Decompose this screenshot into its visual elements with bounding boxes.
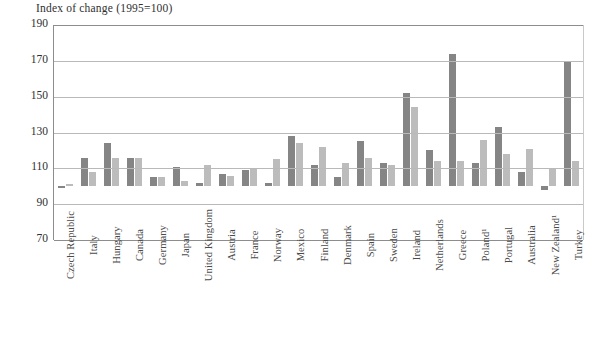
x-label-cell: Mexico xyxy=(284,243,307,338)
bar-series-2 xyxy=(319,147,326,186)
bar-series-1 xyxy=(403,93,410,186)
bar-series-1 xyxy=(58,186,65,188)
bar-series-1 xyxy=(173,167,180,187)
x-axis-label: Norway xyxy=(272,228,283,262)
x-axis-label: Austria xyxy=(226,229,237,261)
bar-series-1 xyxy=(150,177,157,186)
y-tick-label: 110 xyxy=(4,160,48,172)
bar-series-1 xyxy=(219,174,226,187)
x-label-cell: Czech Republic xyxy=(53,243,76,338)
chart-figure: Index of change (1995=100) 1901701501301… xyxy=(0,0,607,338)
y-tick-label: 130 xyxy=(4,125,48,137)
bar-series-1 xyxy=(472,163,479,186)
bar-series-1 xyxy=(357,141,364,186)
x-label-cell: New Zealand¹ xyxy=(538,243,561,338)
y-tick-label: 190 xyxy=(4,17,48,29)
x-label-cell: France xyxy=(238,243,261,338)
bar-series-2 xyxy=(503,154,510,186)
bar-series-1 xyxy=(334,177,341,186)
x-label-cell: Sweden xyxy=(376,243,399,338)
y-axis-title: Index of change (1995=100) xyxy=(36,2,173,14)
bar-series-1 xyxy=(265,183,272,187)
bar-series-2 xyxy=(480,140,487,187)
bar-series-2 xyxy=(135,158,142,187)
x-axis-label: Canada xyxy=(134,229,145,261)
bar-series-1 xyxy=(518,172,525,186)
x-label-cell: Poland¹ xyxy=(469,243,492,338)
x-label-cell: Portugal xyxy=(492,243,515,338)
gridline-130 xyxy=(54,133,583,134)
x-axis-label: Poland¹ xyxy=(480,228,491,261)
x-axis-label: New Zealand¹ xyxy=(550,215,561,276)
x-label-cell: Australia xyxy=(515,243,538,338)
cropped-header-text xyxy=(300,0,480,7)
x-axis-labels: Czech RepublicItalyHungaryCanadaGermanyJ… xyxy=(53,243,584,338)
gridline-150 xyxy=(54,97,583,98)
x-label-cell: Finland xyxy=(307,243,330,338)
bar-series-2 xyxy=(549,168,556,186)
x-label-cell: Austria xyxy=(215,243,238,338)
bar-series-1 xyxy=(449,54,456,187)
x-axis-label: United Kingdom xyxy=(203,209,214,281)
bar-series-2 xyxy=(227,176,234,187)
bar-series-2 xyxy=(342,163,349,186)
x-axis-label: Mexico xyxy=(295,229,306,262)
bar-series-1 xyxy=(104,143,111,186)
x-label-cell: Greece xyxy=(446,243,469,338)
bar-series-2 xyxy=(89,172,96,186)
x-label-cell: Ireland xyxy=(399,243,422,338)
y-tick-label: 170 xyxy=(4,53,48,65)
bar-series-1 xyxy=(127,158,134,187)
plot-area xyxy=(53,25,584,240)
footnote-fragment xyxy=(6,330,306,338)
x-axis-label: Denmark xyxy=(342,225,353,265)
bar-series-2 xyxy=(250,168,257,186)
bar-series-2 xyxy=(158,177,165,186)
gridline-110 xyxy=(54,168,583,169)
x-label-cell: Spain xyxy=(353,243,376,338)
x-axis-label: Portugal xyxy=(503,227,514,263)
x-label-cell: Germany xyxy=(145,243,168,338)
bar-series-2 xyxy=(112,158,119,187)
x-axis-label: Czech Republic xyxy=(65,211,76,279)
y-tick-label: 90 xyxy=(4,196,48,208)
x-label-cell: Italy xyxy=(76,243,99,338)
bar-series-2 xyxy=(296,143,303,186)
x-label-cell: Turkey xyxy=(561,243,584,338)
x-axis-label: Spain xyxy=(365,233,376,257)
bar-series-2 xyxy=(66,184,73,186)
bar-series-2 xyxy=(365,158,372,187)
x-axis-label: Finland xyxy=(319,229,330,262)
x-label-cell: Norway xyxy=(261,243,284,338)
bar-series-1 xyxy=(196,183,203,187)
x-axis-label: Greece xyxy=(457,230,468,260)
x-axis-label: Netherlands xyxy=(434,219,445,271)
gridline-170 xyxy=(54,61,583,62)
bar-series-2 xyxy=(434,161,441,186)
x-label-cell: Hungary xyxy=(99,243,122,338)
x-axis-label: Turkey xyxy=(573,230,584,261)
bar-series-2 xyxy=(411,107,418,186)
x-label-cell: United Kingdom xyxy=(192,243,215,338)
bar-series-1 xyxy=(380,163,387,186)
gridline-190 xyxy=(54,25,583,26)
bar-series-2 xyxy=(457,161,464,186)
bar-series-1 xyxy=(288,136,295,186)
x-label-cell: Netherlands xyxy=(423,243,446,338)
bar-series-1 xyxy=(81,158,88,187)
bar-series-2 xyxy=(181,181,188,186)
x-axis-label: Germany xyxy=(157,225,168,265)
x-label-cell: Japan xyxy=(168,243,191,338)
bar-series-1 xyxy=(242,170,249,186)
x-axis-label: Ireland xyxy=(411,230,422,260)
gridline-90 xyxy=(54,204,583,205)
x-axis-label: Japan xyxy=(180,233,191,257)
y-tick-label: 70 xyxy=(4,232,48,244)
x-axis-label: Hungary xyxy=(111,226,122,263)
bar-series-2 xyxy=(572,161,579,186)
bar-series-1 xyxy=(495,127,502,186)
bar-series-1 xyxy=(541,186,548,190)
x-axis-label: Italy xyxy=(88,235,99,255)
x-axis-label: Australia xyxy=(526,225,537,264)
bar-series-2 xyxy=(273,159,280,186)
